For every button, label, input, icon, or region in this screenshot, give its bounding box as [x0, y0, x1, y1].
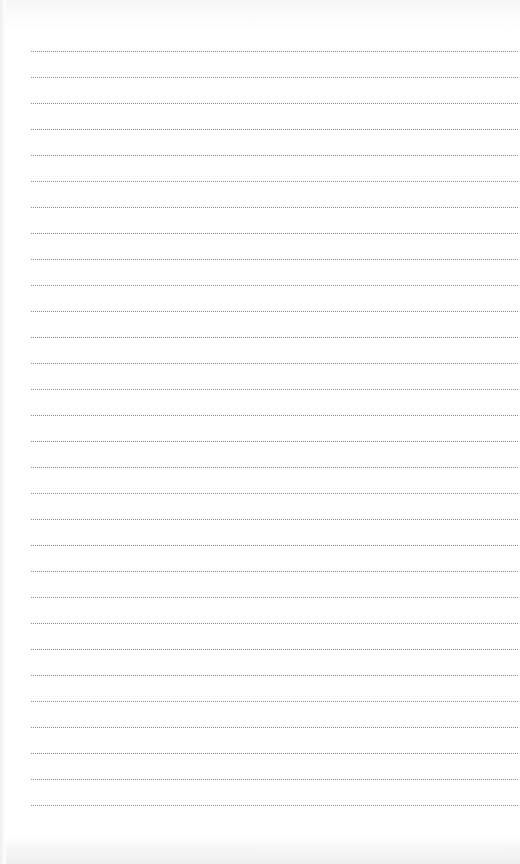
- ruled-lines: [0, 0, 520, 864]
- ruled-line: [31, 311, 518, 312]
- ruled-line: [31, 571, 518, 572]
- ruled-line: [31, 363, 518, 364]
- ruled-line: [31, 207, 518, 208]
- ruled-line: [31, 597, 518, 598]
- ruled-line: [31, 51, 518, 52]
- ruled-line: [31, 259, 518, 260]
- ruled-line: [31, 675, 518, 676]
- ruled-line: [31, 623, 518, 624]
- ruled-line: [31, 441, 518, 442]
- ruled-line: [31, 129, 518, 130]
- ruled-line: [31, 753, 518, 754]
- ruled-line: [31, 77, 518, 78]
- ruled-line: [31, 103, 518, 104]
- ruled-line: [31, 701, 518, 702]
- ruled-line: [31, 285, 518, 286]
- notebook-page: [0, 0, 520, 864]
- ruled-line: [31, 233, 518, 234]
- ruled-line: [31, 649, 518, 650]
- ruled-line: [31, 467, 518, 468]
- ruled-line: [31, 779, 518, 780]
- ruled-line: [31, 415, 518, 416]
- ruled-line: [31, 493, 518, 494]
- ruled-line: [31, 519, 518, 520]
- ruled-line: [31, 727, 518, 728]
- ruled-line: [31, 545, 518, 546]
- ruled-line: [31, 805, 518, 806]
- ruled-line: [31, 155, 518, 156]
- ruled-line: [31, 337, 518, 338]
- ruled-line: [31, 181, 518, 182]
- ruled-line: [31, 389, 518, 390]
